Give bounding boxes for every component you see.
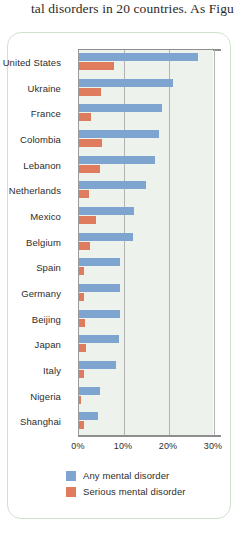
bar-row xyxy=(79,335,213,361)
bar-row xyxy=(79,79,213,105)
bar-any xyxy=(79,156,155,164)
legend-swatch-icon xyxy=(66,471,76,481)
bar-any xyxy=(79,412,98,420)
category-label: Lebanon xyxy=(23,160,61,171)
bar-any xyxy=(79,284,120,292)
x-tick-label: 0% xyxy=(71,441,84,451)
bar-row xyxy=(79,104,213,130)
legend-label: Serious mental disorder xyxy=(83,486,186,497)
bar-serious xyxy=(79,293,84,301)
bar-serious xyxy=(79,190,89,198)
bar-serious xyxy=(79,88,101,96)
bar-serious xyxy=(79,370,84,378)
bar-serious xyxy=(79,344,86,352)
category-label: Beijing xyxy=(32,314,61,325)
category-label: Spain xyxy=(36,262,61,273)
bar-row xyxy=(79,387,213,413)
figure-card: United StatesUkraineFranceColombiaLebano… xyxy=(7,32,231,519)
category-label: Japan xyxy=(35,339,61,350)
bar-any xyxy=(79,233,133,241)
bar-row xyxy=(79,361,213,387)
x-tick-label: 20% xyxy=(159,441,178,451)
bar-any xyxy=(79,387,100,395)
category-label: Nigeria xyxy=(30,391,61,402)
gridline xyxy=(214,50,215,435)
bar-serious xyxy=(79,165,100,173)
category-label: Italy xyxy=(43,365,61,376)
legend-swatch-icon xyxy=(66,487,76,497)
x-tick-label: 10% xyxy=(114,441,133,451)
bar-row xyxy=(79,284,213,310)
bar-any xyxy=(79,130,159,138)
category-label: Belgium xyxy=(26,237,61,248)
bar-row xyxy=(79,233,213,259)
category-label: Germany xyxy=(21,288,61,299)
x-tick-label: 30% xyxy=(204,441,223,451)
bar-row xyxy=(79,181,213,207)
legend-item: Serious mental disorder xyxy=(66,486,186,497)
bar-serious xyxy=(79,319,85,327)
bar-serious xyxy=(79,216,96,224)
bar-any xyxy=(79,335,119,343)
bar-any xyxy=(79,207,134,215)
legend-item: Any mental disorder xyxy=(66,470,186,481)
bar-row xyxy=(79,310,213,336)
legend-label: Any mental disorder xyxy=(83,470,169,481)
bar-serious xyxy=(79,421,84,429)
bar-row xyxy=(79,53,213,79)
chart-legend: Any mental disorderSerious mental disord… xyxy=(66,470,186,502)
category-label: France xyxy=(31,108,61,119)
page-text-fragment: tal disorders in 20 countries. As Figu xyxy=(0,0,240,24)
bar-any xyxy=(79,53,198,61)
bar-any xyxy=(79,181,146,189)
bar-any xyxy=(79,79,173,87)
category-label: Mexico xyxy=(30,211,61,222)
bar-serious xyxy=(79,113,91,121)
category-label: Shanghai xyxy=(20,416,61,427)
bar-serious xyxy=(79,139,102,147)
bar-serious xyxy=(79,62,114,70)
category-label: Netherlands xyxy=(9,185,61,196)
bar-any xyxy=(79,104,162,112)
bar-row xyxy=(79,130,213,156)
bar-serious xyxy=(79,242,90,250)
axis-line-bottom xyxy=(78,435,221,437)
bar-serious xyxy=(79,267,84,275)
category-label: United States xyxy=(3,57,61,68)
bar-serious xyxy=(79,396,81,404)
category-label: Colombia xyxy=(20,134,61,145)
bar-any xyxy=(79,258,120,266)
bar-row xyxy=(79,258,213,284)
bar-any xyxy=(79,310,120,318)
bar-any xyxy=(79,361,116,369)
plot-area xyxy=(78,50,213,435)
chart-plot: United StatesUkraineFranceColombiaLebano… xyxy=(8,33,230,518)
bar-row xyxy=(79,207,213,233)
bar-row xyxy=(79,156,213,182)
category-label: Ukraine xyxy=(28,83,61,94)
